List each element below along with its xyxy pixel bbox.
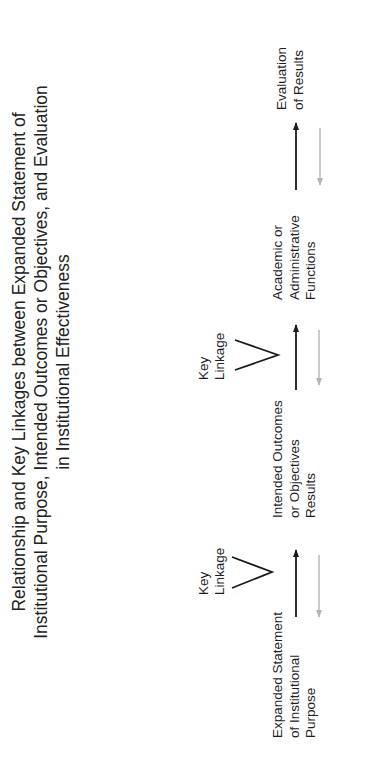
linkage-graphics xyxy=(0,0,389,772)
key-linkage-v-icon-1 xyxy=(232,557,272,588)
key-linkage-v-icon-2 xyxy=(235,340,278,370)
diagram-canvas: Relationship and Key Linkages between Ex… xyxy=(0,0,389,772)
